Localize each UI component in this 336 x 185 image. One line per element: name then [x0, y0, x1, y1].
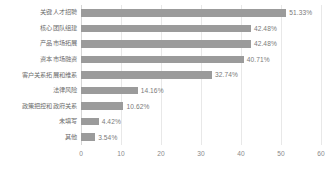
category-label: 资本市场融资: [0, 52, 77, 68]
x-tick-label: 10: [117, 150, 124, 157]
bar-row: 未填写 4.42%: [0, 114, 336, 130]
bar-value-label: 51.33%: [289, 9, 312, 16]
bar-rows: 关键人才招聘 51.33% 核心团队组建 42.48% 产品市场拓展 42.48…: [0, 5, 336, 145]
bar-container: 14.16%: [81, 83, 336, 99]
bar-row: 资本市场融资 40.71%: [0, 52, 336, 68]
bar-value-label: 4.42%: [102, 118, 121, 125]
bar-4: [81, 71, 212, 79]
bar-row: 客户关系拓展和维系 32.74%: [0, 67, 336, 83]
x-tick-label: 0: [79, 150, 83, 157]
bar-5: [81, 87, 138, 95]
x-tick-label: 50: [277, 150, 284, 157]
bar-value-label: 14.16%: [141, 87, 164, 94]
x-tick-label: 20: [157, 150, 164, 157]
x-tick-label: 60: [317, 150, 324, 157]
category-label: 客户关系拓展和维系: [0, 67, 77, 83]
horizontal-bar-chart: 关键人才招聘 51.33% 核心团队组建 42.48% 产品市场拓展 42.48…: [0, 0, 336, 185]
category-label: 关键人才招聘: [0, 5, 77, 21]
bar-container: 51.33%: [81, 5, 336, 21]
category-label: 核心团队组建: [0, 21, 77, 37]
bar-value-label: 32.74%: [215, 71, 238, 78]
bar-7: [81, 118, 99, 126]
bar-2: [81, 40, 251, 48]
x-tick-label: 30: [197, 150, 204, 157]
clipped-footer-text: [0, 178, 336, 185]
category-label: 产品市场拓展: [0, 36, 77, 52]
bar-6: [81, 102, 123, 110]
bar-container: 4.42%: [81, 114, 336, 130]
bar-container: 3.54%: [81, 129, 336, 145]
bar-value-label: 3.54%: [98, 134, 117, 141]
category-label: 政策把控和政府关系: [0, 98, 77, 114]
category-label: 未填写: [0, 114, 77, 130]
bar-container: 10.62%: [81, 98, 336, 114]
bar-row: 其他 3.54%: [0, 129, 336, 145]
bar-container: 40.71%: [81, 52, 336, 68]
bar-value-label: 10.62%: [126, 103, 149, 110]
bar-row: 法律风险 14.16%: [0, 83, 336, 99]
bar-value-label: 40.71%: [247, 56, 270, 63]
x-axis: 0 10 20 30 40 50 60: [81, 145, 321, 163]
bar-3: [81, 56, 244, 64]
x-tick-label: 40: [237, 150, 244, 157]
bar-row: 关键人才招聘 51.33%: [0, 5, 336, 21]
bar-1: [81, 25, 251, 33]
bar-container: 32.74%: [81, 67, 336, 83]
bar-container: 42.48%: [81, 21, 336, 37]
bar-row: 产品市场拓展 42.48%: [0, 36, 336, 52]
category-label: 法律风险: [0, 83, 77, 99]
bar-container: 42.48%: [81, 36, 336, 52]
bar-value-label: 42.48%: [254, 25, 277, 32]
bar-value-label: 42.48%: [254, 40, 277, 47]
category-label: 其他: [0, 129, 77, 145]
bar-row: 政策把控和政府关系 10.62%: [0, 98, 336, 114]
bar-8: [81, 133, 95, 141]
bar-0: [81, 9, 286, 17]
bar-row: 核心团队组建 42.48%: [0, 21, 336, 37]
